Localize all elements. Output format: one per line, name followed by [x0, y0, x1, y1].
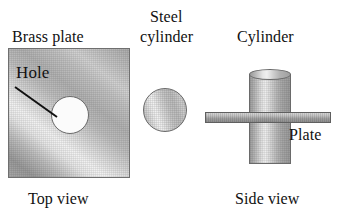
top-view-label: Top view — [28, 190, 89, 207]
hole-label: Hole — [16, 64, 49, 81]
side-plate-label: Plate — [289, 126, 322, 143]
figure-canvas: Brass plate Hole Top view Steel cylinder… — [0, 0, 342, 218]
hole-leader-line — [13, 85, 71, 119]
side-cylinder-top-ellipse — [249, 69, 291, 80]
steel-cylinder-texture — [144, 89, 186, 131]
steel-cylinder-label-line2: cylinder — [140, 28, 193, 45]
side-plate-texture — [206, 113, 330, 122]
brass-plate-label: Brass plate — [12, 28, 84, 45]
steel-cylinder-shape — [143, 88, 187, 132]
side-view-label: Side view — [235, 190, 299, 207]
steel-cylinder-label-line1: Steel — [150, 8, 183, 25]
side-plate-shape — [205, 112, 331, 123]
side-cylinder-label: Cylinder — [237, 28, 294, 45]
